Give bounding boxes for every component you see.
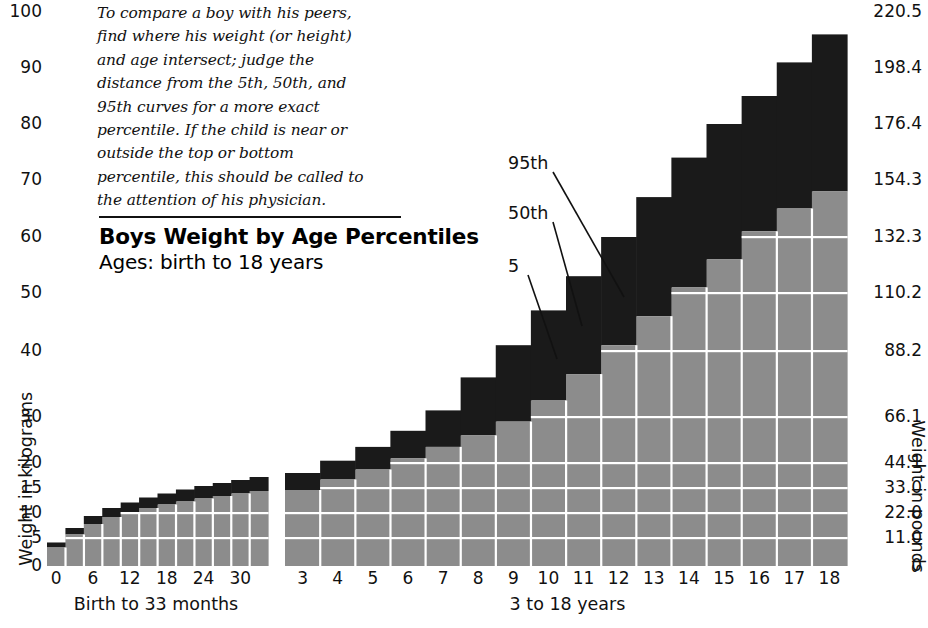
callout-label-5th: 5 — [508, 258, 519, 276]
range-bar-child-label: 3 to 18 years — [285, 594, 850, 614]
range-bar-infant-label: Birth to 33 months — [44, 594, 268, 614]
callout-label-50th: 50th — [508, 205, 548, 223]
callout-label-95th: 95th — [508, 155, 548, 173]
leader-line-50th — [553, 222, 582, 326]
range-bar-infant: Birth to 33 months — [44, 592, 268, 618]
percentile-callout-leader-lines — [0, 0, 928, 628]
leader-line-95th — [553, 172, 624, 297]
leader-line-5th — [528, 275, 557, 359]
range-bar-child: 3 to 18 years — [285, 592, 850, 618]
